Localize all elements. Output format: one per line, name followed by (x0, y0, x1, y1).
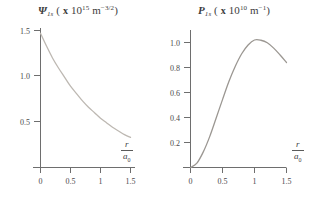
psi-xaxis-label-denominator: a0 (121, 152, 133, 163)
figure-container: Ψ1s ( x 1015 m−3/2) 0.5 1.0 1.5 0 0.5 1 … (0, 0, 312, 199)
prob-xticklabel-2: 1 (253, 177, 257, 186)
psi-xticklabel-3: 1.5 (126, 177, 136, 186)
prob-plot-svg: 0.2 0.4 0.6 0.8 1.0 0 0.5 1 1.5 (156, 0, 312, 199)
prob-yticklabel-0: 0.2 (170, 139, 180, 148)
psi-xaxis-label: r a0 (121, 140, 133, 163)
prob-xaxis-label-denominator: a0 (292, 152, 304, 163)
prob-yticklabel-3: 0.8 (170, 64, 180, 73)
prob-xticklabel-3: 1.5 (282, 177, 292, 186)
psi-xticklabel-1: 0.5 (66, 177, 76, 186)
psi-curve (41, 33, 131, 137)
psi-yticklabel-1: 1.0 (20, 72, 30, 81)
prob-xaxis-label-numerator: r (292, 140, 304, 149)
prob-xaxis-label: r a0 (292, 140, 304, 163)
psi-xticklabel-2: 1 (99, 177, 103, 186)
psi-xaxis-label-numerator: r (121, 140, 133, 149)
prob-xticklabel-0: 0 (189, 177, 193, 186)
prob-yticklabel-2: 0.6 (170, 89, 180, 98)
psi-yticklabel-0: 0.5 (20, 118, 30, 127)
psi-plot-svg: 0.5 1.0 1.5 0 0.5 1 1.5 (0, 0, 156, 199)
psi-yticklabel-2: 1.5 (20, 27, 30, 36)
psi-xticklabel-0: 0 (39, 177, 43, 186)
prob-yticklabel-1: 0.4 (170, 114, 180, 123)
prob-curve (191, 40, 287, 168)
chart-panel-psi: Ψ1s ( x 1015 m−3/2) 0.5 1.0 1.5 0 0.5 1 … (0, 0, 156, 199)
prob-yticklabel-4: 1.0 (170, 39, 180, 48)
chart-panel-probability: P1s ( x 1010 m−1) 0.2 0.4 0.6 0.8 1.0 (156, 0, 312, 199)
prob-xticklabel-1: 0.5 (218, 177, 228, 186)
